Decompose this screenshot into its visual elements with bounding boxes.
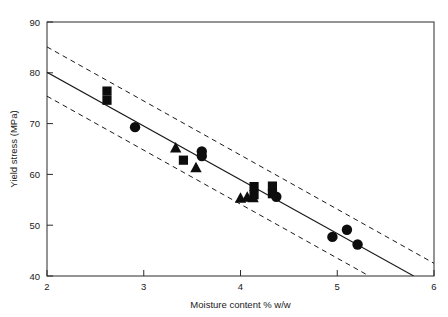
y-axis-label: Yield stress (MPa) (8, 110, 19, 187)
x-axis-label: Moisture content % w/w (190, 299, 290, 310)
y-tick-label-60: 60 (29, 169, 40, 180)
x-tick-label-4: 4 (238, 281, 243, 292)
y-tick-label-40: 40 (29, 271, 40, 282)
data-point-circle (130, 122, 140, 132)
x-tick-label-3: 3 (141, 281, 146, 292)
data-point-square (249, 182, 258, 191)
confidence-band-lower (47, 96, 369, 276)
y-tick-label-90: 90 (29, 17, 40, 28)
data-point-square (102, 86, 111, 95)
data-point-circle (352, 239, 362, 249)
data-point-triangle (190, 162, 201, 172)
plot-frame (47, 22, 434, 276)
data-point-circle (327, 232, 337, 242)
confidence-band-upper (47, 47, 434, 263)
y-tick-label-70: 70 (29, 118, 40, 129)
scatter-plot-svg: 40506070809023456Moisture content % w/wY… (0, 0, 448, 317)
data-point-square (102, 96, 111, 105)
y-tick-label-80: 80 (29, 67, 40, 78)
chart-figure: 40506070809023456Moisture content % w/wY… (0, 0, 448, 317)
data-point-triangle (170, 142, 181, 152)
trend-lines-group (47, 47, 434, 276)
data-point-square (179, 156, 188, 165)
y-tick-label-50: 50 (29, 220, 40, 231)
x-tick-label-5: 5 (335, 281, 340, 292)
data-point-square (268, 189, 277, 198)
data-point-circle (342, 225, 352, 235)
data-point-circle (197, 151, 207, 161)
x-tick-label-6: 6 (431, 281, 436, 292)
axis-ticks: 40506070809023456 (29, 17, 436, 293)
x-tick-label-2: 2 (44, 281, 49, 292)
data-points-group (102, 86, 362, 249)
